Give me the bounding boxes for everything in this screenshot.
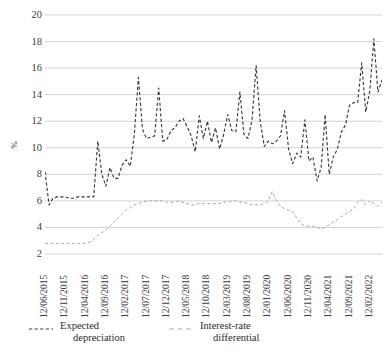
- legend-label-line1: Expected: [60, 320, 99, 331]
- legend-dash-icon: [28, 324, 54, 334]
- x-tick-label: 12/09/2021: [344, 256, 354, 318]
- x-tick-label: 12/07/2017: [141, 256, 151, 318]
- legend-label: Expecteddepreciation: [60, 320, 125, 344]
- x-tick-label: 12/04/2021: [323, 256, 333, 318]
- y-tick-label: 18: [8, 37, 42, 47]
- y-tick-label: 2: [8, 249, 42, 259]
- legend-label-line2: depreciation: [60, 332, 125, 344]
- x-tick-label: 12/11/2015: [59, 256, 69, 318]
- y-tick-label: 12: [8, 116, 42, 126]
- legend-label-line2: differential: [200, 332, 259, 344]
- y-tick-label: 8: [8, 169, 42, 179]
- series-line-expected-depreciation: [45, 39, 382, 205]
- legend-label-line1: Interest-rate: [200, 320, 251, 331]
- y-tick-label: 10: [8, 143, 42, 153]
- legend-dash-icon: [168, 324, 194, 334]
- x-tick-label: 12/11/2020: [303, 256, 313, 318]
- chart-container: % 2018161412108642 12/06/201512/11/20151…: [0, 0, 387, 355]
- x-tick-label: 12/03/2019: [222, 256, 232, 318]
- x-tick-label: 12/06/2015: [39, 256, 49, 318]
- chart-legend: ExpecteddepreciationInterest-ratediffere…: [28, 320, 368, 354]
- y-tick-label: 14: [8, 90, 42, 100]
- y-tick-label: 20: [8, 10, 42, 20]
- x-tick-label: 12/02/2022: [364, 256, 374, 318]
- legend-label: Interest-ratedifferential: [200, 320, 259, 344]
- chart-svg: [45, 10, 382, 259]
- y-tick-label: 16: [8, 63, 42, 73]
- x-tick-label: 12/05/2018: [181, 256, 191, 318]
- legend-item[interactable]: Interest-ratedifferential: [168, 320, 259, 344]
- y-axis: % 2018161412108642: [0, 0, 42, 260]
- x-tick-label: 12/12/2017: [161, 256, 171, 318]
- x-tick-label: 12/06/2020: [283, 256, 293, 318]
- x-axis: 12/06/201512/11/201512/04/201612/09/2016…: [45, 258, 382, 318]
- series-line-interest-rate-differential: [45, 192, 382, 244]
- y-tick-label: 6: [8, 196, 42, 206]
- x-tick-label: 12/10/2018: [201, 256, 211, 318]
- x-tick-label: 12/04/2016: [80, 256, 90, 318]
- x-tick-label: 12/01/2020: [262, 256, 272, 318]
- legend-item[interactable]: Expecteddepreciation: [28, 320, 125, 344]
- plot-area: [45, 10, 382, 259]
- x-tick-label: 12/02/2017: [120, 256, 130, 318]
- y-tick-label: 4: [8, 222, 42, 232]
- x-tick-label: 12/08/2019: [242, 256, 252, 318]
- x-tick-label: 12/09/2016: [100, 256, 110, 318]
